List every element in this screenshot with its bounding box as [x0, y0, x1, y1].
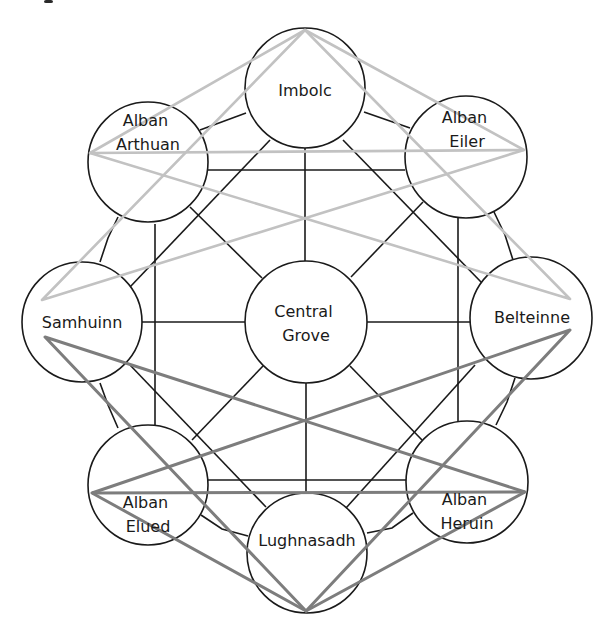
grove-wheel-diagram: Imbolc Alban Arthuan Alban Eiler Samhuin… [0, 0, 607, 637]
cropped-glyph-mark [44, 0, 53, 3]
label-belteinne: Belteinne [494, 308, 570, 327]
label-lughnasadh: Lughnasadh [258, 531, 355, 550]
node-lughnasadh [247, 493, 367, 613]
connector-central-grove-alban-heruin [350, 366, 422, 440]
connector-alban-eiler-central-grove [351, 202, 423, 277]
node-central-grove [245, 261, 367, 383]
connector-alban-eiler-belteinne [494, 212, 513, 260]
connector-belteinne-alban-heruin [496, 378, 515, 425]
label-samhuinn: Samhuinn [42, 313, 123, 332]
label-imbolc: Imbolc [278, 81, 332, 100]
